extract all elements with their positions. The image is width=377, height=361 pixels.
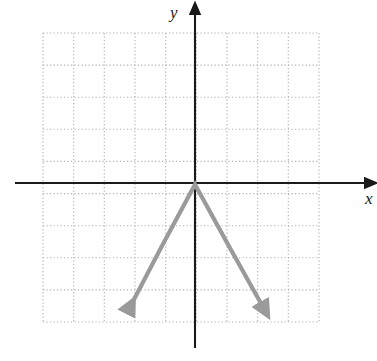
x-axis-label: x xyxy=(365,190,373,207)
parabola-graph-figure: y x xyxy=(0,0,377,361)
grid-lines xyxy=(43,33,319,322)
coordinate-plane-svg xyxy=(0,0,377,361)
y-axis-label: y xyxy=(170,4,178,21)
